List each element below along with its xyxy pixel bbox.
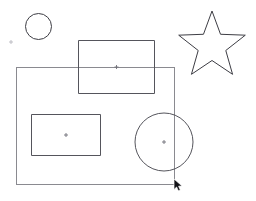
tick-marker-icon (9, 40, 13, 44)
inner-rectangle-center-marker (64, 133, 68, 137)
star-shape[interactable] (179, 11, 246, 74)
mouse-cursor-icon (174, 179, 182, 191)
large-rectangle-shape[interactable] (17, 68, 175, 185)
shapes-svg-surface[interactable] (0, 0, 256, 201)
small-circle-shape[interactable] (26, 14, 52, 40)
drawing-canvas[interactable]: Shapes Canvas (0, 0, 256, 201)
top-rectangle-center-marker (115, 65, 119, 69)
large-circle-center-marker (162, 140, 166, 144)
